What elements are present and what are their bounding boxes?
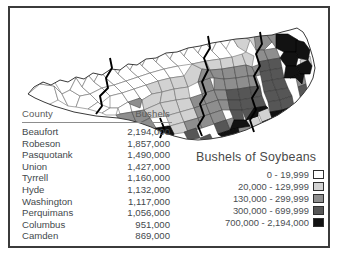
cell-bushels: 1,160,000 [102, 173, 172, 185]
cell-bushels: 1,857,000 [102, 138, 172, 150]
cell-county: Pasquotank [22, 150, 102, 162]
legend-entry: 300,000 - 699,999 [196, 205, 324, 216]
cell-county: Perquimans [22, 208, 102, 220]
cell-bushels: 951,000 [102, 219, 172, 231]
legend-entry: 0 - 19,999 [196, 169, 324, 180]
legend-entry-swatch [313, 206, 324, 215]
table-row: Washington1,117,000 [22, 196, 172, 208]
legend-entry-swatch [313, 182, 324, 191]
legend-entry-label: 0 - 19,999 [267, 169, 309, 180]
cell-county: Beaufort [22, 123, 102, 139]
legend-entry-swatch [313, 170, 324, 179]
cell-bushels: 1,056,000 [102, 208, 172, 220]
legend-entry: 130,000 - 299,999 [196, 193, 324, 204]
legend-entry: 700,000 - 2,194,000 [196, 217, 324, 228]
legend-entry-label: 130,000 - 299,999 [233, 193, 309, 204]
legend-entry-label: 700,000 - 2,194,000 [225, 217, 309, 228]
column-header-county: County [22, 108, 102, 123]
cell-county: Hyde [22, 184, 102, 196]
table-head: County Bushels [22, 108, 172, 123]
table-body: Beaufort2,194,000Robeson1,857,000Pasquot… [22, 123, 172, 243]
table-row: Columbus951,000 [22, 219, 172, 231]
cell-bushels: 1,132,000 [102, 184, 172, 196]
cell-county: Robeson [22, 138, 102, 150]
cell-bushels: 1,427,000 [102, 161, 172, 173]
table-row: Hyde1,132,000 [22, 184, 172, 196]
table-row: Tyrrell1,160,000 [22, 173, 172, 185]
county-data-table: County Bushels Beaufort2,194,000Robeson1… [22, 108, 172, 242]
table-row: Perquimans1,056,000 [22, 208, 172, 220]
legend-entry-label: 300,000 - 699,999 [233, 205, 309, 216]
cell-county: Camden [22, 231, 102, 243]
table-row: Union1,427,000 [22, 161, 172, 173]
column-header-bushels: Bushels [102, 108, 172, 123]
cell-county: Washington [22, 196, 102, 208]
table-row: Camden869,000 [22, 231, 172, 243]
legend-entry-label: 20,000 - 129,999 [238, 181, 309, 192]
cell-bushels: 1,490,000 [102, 150, 172, 162]
legend-entry-swatch [313, 218, 324, 227]
table-row: Robeson1,857,000 [22, 138, 172, 150]
figure-root: County Bushels Beaufort2,194,000Robeson1… [0, 0, 338, 255]
table-row: Pasquotank1,490,000 [22, 150, 172, 162]
table-row: Beaufort2,194,000 [22, 123, 172, 139]
legend-entry: 20,000 - 129,999 [196, 181, 324, 192]
cell-county: Union [22, 161, 102, 173]
legend-title: Bushels of Soybeans [196, 150, 324, 164]
cell-county: Tyrrell [22, 173, 102, 185]
cell-bushels: 2,194,000 [102, 123, 172, 139]
map-legend: Bushels of Soybeans 0 - 19,99920,000 - 1… [196, 150, 324, 229]
cell-county: Columbus [22, 219, 102, 231]
data-table: County Bushels Beaufort2,194,000Robeson1… [22, 108, 172, 242]
cell-bushels: 1,117,000 [102, 196, 172, 208]
table-header-row: County Bushels [22, 108, 172, 123]
legend-entry-swatch [313, 194, 324, 203]
legend-entries: 0 - 19,99920,000 - 129,999130,000 - 299,… [196, 169, 324, 228]
cell-bushels: 869,000 [102, 231, 172, 243]
